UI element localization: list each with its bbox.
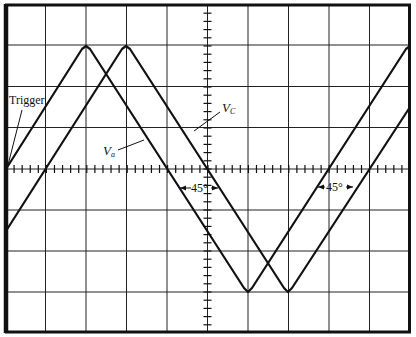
phase-left-label: 45° — [191, 181, 208, 195]
oscilloscope-screen: Trigger VC Va 45° 45° — [0, 0, 416, 337]
va-label: Va — [103, 143, 115, 159]
phase-right-label: 45° — [326, 180, 343, 194]
phase-annotation-right: 45° — [318, 180, 353, 194]
vc-label: VC — [222, 100, 236, 116]
phase-annotation-left: 45° — [180, 181, 218, 195]
va-leader-line — [118, 140, 144, 150]
trigger-label: Trigger — [9, 93, 45, 107]
